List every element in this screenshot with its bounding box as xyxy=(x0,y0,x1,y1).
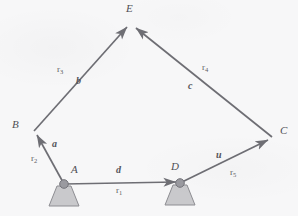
pivot-a xyxy=(60,180,69,189)
vector-label-r1: r1 xyxy=(116,186,122,195)
link-c-line xyxy=(136,28,272,137)
link-a-group xyxy=(37,135,64,184)
node-label-B: B xyxy=(12,119,19,130)
pivot-d xyxy=(176,179,185,188)
link-label-d: d xyxy=(116,165,121,175)
link-c-group xyxy=(136,28,272,137)
link-u-line xyxy=(180,140,268,183)
vector-label-r5: r5 xyxy=(230,168,236,177)
link-a-line xyxy=(37,135,64,184)
vector-label-r1-sub: 1 xyxy=(119,189,122,196)
link-label-c: c xyxy=(188,81,192,91)
vector-label-r2: r2 xyxy=(31,154,37,163)
vector-label-r5-sub: 5 xyxy=(233,171,236,178)
link-label-a: a xyxy=(52,139,57,149)
link-d-line xyxy=(64,182,176,184)
link-label-u: u xyxy=(216,150,222,160)
link-u-group xyxy=(180,140,268,183)
vector-label-r3-sub: 3 xyxy=(60,68,63,75)
vector-label-r4: r4 xyxy=(202,63,208,72)
node-label-C: C xyxy=(280,125,287,136)
vector-label-r4-sub: 4 xyxy=(205,66,208,73)
vector-label-r3: r3 xyxy=(57,65,63,74)
node-label-E: E xyxy=(126,3,133,14)
vector-label-r2-sub: 2 xyxy=(34,157,37,164)
node-label-A: A xyxy=(71,164,78,175)
link-label-b: b xyxy=(76,76,81,86)
link-d-group xyxy=(64,182,176,184)
linkage-diagram-svg xyxy=(0,0,298,216)
node-label-D: D xyxy=(171,161,179,172)
figure-canvas: A B C D E a b c d u r2 r3 r4 r1 r5 xyxy=(0,0,298,216)
